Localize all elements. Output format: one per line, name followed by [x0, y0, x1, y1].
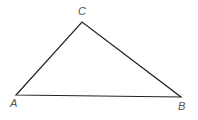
vertex-label-b: B	[178, 100, 185, 112]
triangle-abc	[16, 22, 181, 97]
triangle-diagram: A B C	[0, 0, 198, 120]
vertex-label-a: A	[9, 97, 17, 109]
vertex-label-c: C	[78, 5, 86, 17]
